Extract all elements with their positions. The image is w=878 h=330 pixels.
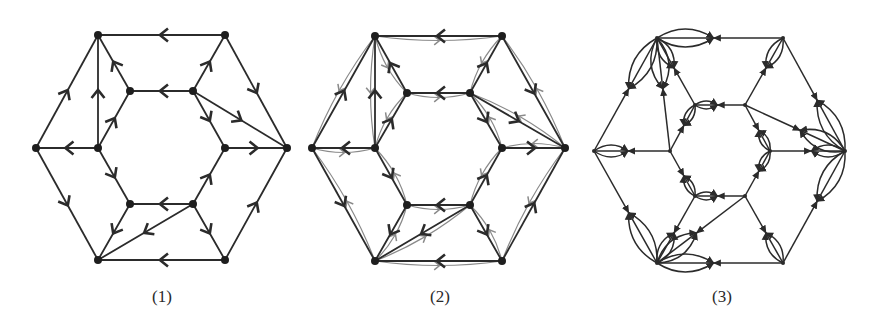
graph-node xyxy=(189,200,197,208)
panel-1-caption: (1) xyxy=(132,287,192,307)
directed-edge xyxy=(470,93,565,148)
graph-node xyxy=(189,87,197,95)
graph-panel-2 xyxy=(308,32,569,266)
graph-panel-1 xyxy=(32,31,291,264)
directed-edge xyxy=(670,126,684,151)
directed-edge xyxy=(312,148,375,261)
graph-node xyxy=(592,149,596,153)
graph-node xyxy=(32,144,40,152)
graph-node xyxy=(498,32,506,40)
directed-edge xyxy=(697,196,745,233)
directed-edge xyxy=(375,93,407,148)
panel-3-caption: (3) xyxy=(692,287,752,307)
graph-node xyxy=(561,144,569,152)
graph-node xyxy=(221,31,229,39)
directed-edge xyxy=(193,35,225,91)
directed-edge xyxy=(663,89,670,151)
graph-node xyxy=(693,194,697,198)
lens-edge xyxy=(811,145,845,151)
directed-edge xyxy=(783,38,817,100)
directed-edge xyxy=(193,91,287,148)
graph-node xyxy=(126,87,134,95)
directed-edge xyxy=(745,68,766,105)
graph-node xyxy=(843,149,847,153)
directed-edge xyxy=(193,148,225,204)
graph-node xyxy=(781,36,785,40)
graph-node xyxy=(403,201,411,209)
directed-edge xyxy=(312,36,375,148)
directed-edge xyxy=(674,68,695,105)
directed-edge xyxy=(375,205,470,261)
directed-edge xyxy=(375,36,407,93)
graph-node xyxy=(371,257,379,265)
directed-edge xyxy=(470,148,502,205)
lens-edge xyxy=(657,263,714,272)
lens-edge xyxy=(657,38,714,47)
directed-edge xyxy=(375,148,407,205)
panel-2-caption: (2) xyxy=(410,287,470,307)
graph-node xyxy=(693,103,697,107)
directed-edge xyxy=(98,204,193,260)
graph-node xyxy=(94,144,102,152)
directed-edge xyxy=(36,148,98,260)
lens-edge xyxy=(594,145,628,151)
graph-node xyxy=(371,32,379,40)
graph-node xyxy=(221,144,229,152)
directed-edge xyxy=(98,35,130,91)
directed-edge xyxy=(470,36,502,93)
graph-node xyxy=(308,144,316,152)
graph-node xyxy=(655,261,659,265)
directed-edge xyxy=(594,151,629,213)
directed-edge xyxy=(594,89,629,151)
graph-node xyxy=(743,103,747,107)
directed-edge xyxy=(745,171,759,196)
graph-node xyxy=(126,200,134,208)
graph-node xyxy=(283,144,291,152)
figure-canvas xyxy=(0,0,878,330)
graph-node xyxy=(221,256,229,264)
directed-edge xyxy=(783,201,817,263)
graph-node xyxy=(655,36,659,40)
directed-edge xyxy=(502,148,565,261)
directed-edge xyxy=(674,196,695,233)
graph-node xyxy=(94,31,102,39)
directed-edge xyxy=(193,204,225,260)
graph-node xyxy=(403,89,411,97)
directed-edge xyxy=(502,36,565,148)
directed-edge xyxy=(98,148,130,204)
graph-node xyxy=(94,256,102,264)
graph-node xyxy=(781,261,785,265)
directed-edge xyxy=(470,205,502,261)
graph-panel-3 xyxy=(592,29,847,272)
directed-edge xyxy=(225,35,287,148)
directed-edge xyxy=(670,151,684,176)
graph-node xyxy=(768,149,772,153)
graph-node xyxy=(371,144,379,152)
graph-node xyxy=(466,201,474,209)
graph-node xyxy=(466,89,474,97)
directed-edge xyxy=(193,91,225,148)
graph-node xyxy=(498,257,506,265)
graph-node xyxy=(743,194,747,198)
directed-edge xyxy=(745,105,800,130)
graph-node xyxy=(498,144,506,152)
directed-edge xyxy=(745,196,766,233)
directed-edge xyxy=(36,35,98,148)
lens-edge xyxy=(657,29,714,38)
directed-edge xyxy=(225,148,287,260)
lens-edge xyxy=(594,151,628,157)
graph-node xyxy=(668,149,672,153)
directed-edge xyxy=(98,91,130,148)
